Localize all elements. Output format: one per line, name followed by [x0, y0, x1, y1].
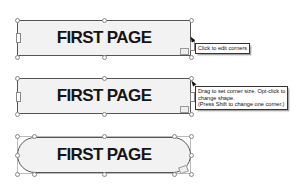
- selection-handle-icon[interactable]: [15, 153, 20, 158]
- tooltip-line: change shape.: [198, 95, 285, 102]
- selection-handle-icon[interactable]: [189, 18, 194, 23]
- selection-handle-icon[interactable]: [102, 112, 107, 117]
- selection-handle-icon[interactable]: [15, 55, 20, 60]
- selection-handle-icon[interactable]: [102, 172, 107, 177]
- selection-handle-icon[interactable]: [102, 55, 107, 60]
- shape-label: FIRST PAGE: [57, 86, 152, 106]
- tooltip-line: (Press Shift to change one corner.): [198, 101, 285, 108]
- selection-handle-icon[interactable]: [15, 112, 20, 117]
- shape-label: FIRST PAGE: [57, 145, 152, 165]
- shape-rounded[interactable]: FIRST PAGE: [17, 137, 191, 173]
- selection-handle-icon[interactable]: [16, 92, 21, 102]
- selection-handle-icon[interactable]: [172, 172, 177, 177]
- corner-edit-icon[interactable]: [180, 48, 189, 55]
- selection-handle-icon[interactable]: [102, 18, 107, 23]
- tooltip-line: Drag to set corner size. Opt-click to: [198, 88, 285, 95]
- selection-handle-icon[interactable]: [172, 134, 177, 139]
- selection-handle-icon[interactable]: [16, 33, 21, 43]
- selection-handle-icon[interactable]: [102, 76, 107, 81]
- selection-handle-icon[interactable]: [189, 172, 194, 177]
- tooltip-drag-corner-size: Drag to set corner size. Opt-click to ch…: [195, 86, 288, 110]
- selection-handle-icon[interactable]: [15, 134, 20, 139]
- selection-handle-icon[interactable]: [15, 18, 20, 23]
- corner-edit-icon[interactable]: [180, 106, 189, 113]
- tooltip-text: Click to edit corners: [198, 45, 247, 51]
- selection-handle-icon[interactable]: [15, 76, 20, 81]
- shape-label: FIRST PAGE: [57, 28, 152, 48]
- selection-handle-icon[interactable]: [189, 153, 194, 158]
- selection-handle-icon[interactable]: [32, 172, 37, 177]
- tooltip-click-to-edit-corners: Click to edit corners: [195, 43, 250, 54]
- selection-handle-icon[interactable]: [189, 112, 194, 117]
- selection-handle-icon[interactable]: [102, 134, 107, 139]
- shape-square-1[interactable]: FIRST PAGE: [17, 20, 191, 56]
- selection-handle-icon[interactable]: [15, 172, 20, 177]
- shape-square-2[interactable]: FIRST PAGE: [17, 78, 191, 114]
- selection-handle-icon[interactable]: [189, 55, 194, 60]
- selection-handle-icon[interactable]: [32, 134, 37, 139]
- selection-handle-icon[interactable]: [189, 134, 194, 139]
